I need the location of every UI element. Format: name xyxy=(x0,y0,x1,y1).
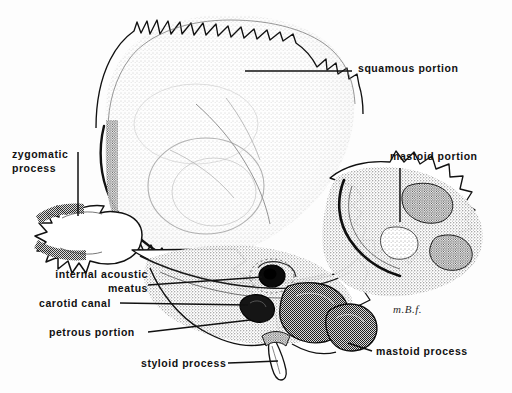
zygomatic-process-shape xyxy=(34,204,142,274)
label-carotid-canal: carotid canal xyxy=(39,297,111,310)
label-styloid-process: styloid process xyxy=(141,357,226,370)
label-internal-acoustic-meatus: internal acousticmeatus xyxy=(18,268,148,295)
temporal-bone-figure: squamous portion mastoid portion zygomat… xyxy=(0,0,512,393)
label-petrous-portion: petrous portion xyxy=(49,326,135,339)
label-zygomatic-process: zygomaticprocess xyxy=(12,148,84,175)
label-mastoid-process: mastoid process xyxy=(376,345,468,358)
label-mastoid-portion: mastoid portion xyxy=(390,150,478,163)
styloid-process-shape xyxy=(262,332,290,381)
artist-signature: m.B.f. xyxy=(393,303,422,315)
label-squamous-portion: squamous portion xyxy=(358,62,458,75)
